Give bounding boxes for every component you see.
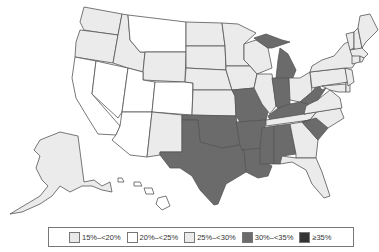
- legend-item-15-20: 15%–<20%: [69, 232, 121, 243]
- map-legend: 15%–<20% 20%–<25% 25%–<30% 30%–<35% ≥35%: [48, 227, 354, 247]
- state-hi: [118, 178, 124, 182]
- state-ct: [352, 56, 360, 64]
- state-nm: [147, 112, 182, 157]
- us-choropleth-map: [0, 0, 379, 225]
- legend-item-30-35: 30%–<35%: [242, 232, 294, 243]
- state-ak: [10, 132, 112, 214]
- state-me: [358, 14, 378, 48]
- legend-label: 20%–<25%: [140, 233, 179, 242]
- legend-label: 30%–<35%: [255, 233, 294, 242]
- state-ms: [260, 126, 274, 164]
- swatch-30-35: [242, 232, 253, 243]
- state-wy: [143, 52, 186, 82]
- legend-label: 25%–<30%: [197, 233, 236, 242]
- state-fl: [280, 156, 330, 198]
- state-sd: [186, 46, 226, 70]
- swatch-25-30: [184, 232, 195, 243]
- legend-label: ≥35%: [312, 233, 331, 242]
- swatch-35-plus: [299, 232, 310, 243]
- state-co: [152, 82, 193, 115]
- state-mi: [276, 48, 296, 80]
- state-az: [112, 112, 152, 157]
- state-ks: [192, 90, 236, 116]
- state-mt: [128, 15, 186, 52]
- legend-label: 15%–<20%: [82, 233, 121, 242]
- state-nd: [186, 22, 225, 46]
- swatch-20-25: [127, 232, 138, 243]
- legend-item-35-plus: ≥35%: [299, 232, 331, 243]
- state-ia: [226, 66, 257, 90]
- legend-item-25-30: 25%–<30%: [184, 232, 236, 243]
- legend-item-20-25: 20%–<25%: [127, 232, 179, 243]
- state-hi-3: [144, 188, 154, 194]
- state-hi-2: [134, 182, 142, 186]
- swatch-15-20: [69, 232, 80, 243]
- state-hi-4: [156, 196, 170, 210]
